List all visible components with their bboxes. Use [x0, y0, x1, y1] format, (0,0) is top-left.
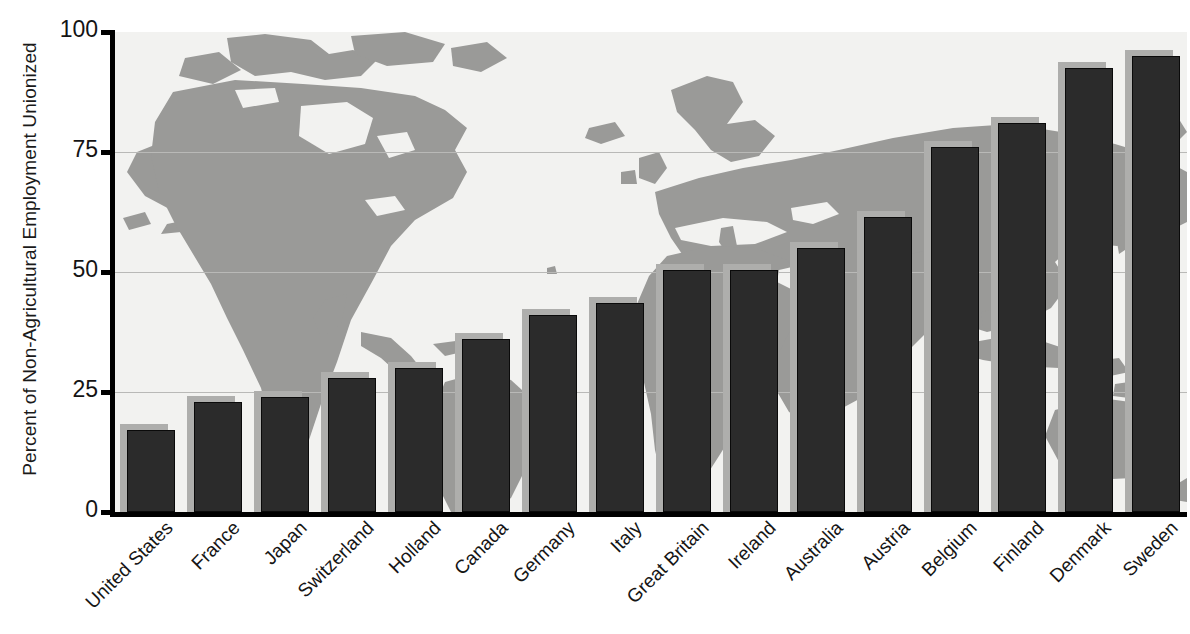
bar-fill: [328, 378, 376, 512]
bar: [663, 270, 711, 512]
bar: [998, 123, 1046, 512]
bar: [395, 368, 443, 512]
bar-fill: [797, 248, 845, 512]
x-axis-category-label: Holland: [384, 517, 445, 578]
y-axis-tick-label: 25: [40, 376, 98, 403]
bar-fill: [998, 123, 1046, 512]
y-axis-tick-mark: [101, 150, 115, 155]
x-axis-category-label: Germany: [508, 517, 579, 588]
x-axis-category-label: Italy: [606, 517, 646, 557]
x-axis-category-label: Australia: [779, 517, 847, 585]
bar: [328, 378, 376, 512]
bar: [730, 270, 778, 512]
bar: [1132, 56, 1180, 512]
bar-fill: [1132, 56, 1180, 512]
bar: [529, 315, 577, 512]
y-axis-tick-mark: [101, 270, 115, 275]
bar-fill: [529, 315, 577, 512]
bar: [462, 339, 510, 512]
bar-fill: [1065, 68, 1113, 512]
bar: [261, 397, 309, 512]
bar: [127, 430, 175, 512]
x-axis-category-label: Belgium: [917, 517, 981, 581]
y-axis-tick-label: 100: [40, 16, 98, 43]
bar: [797, 248, 845, 512]
y-axis-tick-label: 50: [40, 256, 98, 283]
x-axis-category-label: Japan: [259, 517, 311, 569]
x-axis-category-label: Canada: [449, 517, 512, 580]
bar: [596, 303, 644, 512]
bar-fill: [596, 303, 644, 512]
y-axis-tick-mark: [101, 510, 115, 515]
x-axis-category-label: Denmark: [1045, 517, 1115, 587]
y-axis-tick-labels: 0255075100: [36, 0, 98, 634]
x-axis-category-label: Austria: [857, 517, 914, 574]
bar-fill: [730, 270, 778, 512]
x-axis-category-label: Sweden: [1118, 517, 1182, 581]
bar-fill: [864, 217, 912, 512]
y-axis-tick-label: 75: [40, 136, 98, 163]
bar: [194, 402, 242, 512]
bar-series: [115, 32, 1187, 512]
bar-fill: [931, 147, 979, 512]
y-axis-tick-label: 0: [40, 496, 98, 523]
bar-fill: [663, 270, 711, 512]
y-axis-tick-mark: [101, 30, 115, 35]
bar-fill: [462, 339, 510, 512]
bar-fill: [261, 397, 309, 512]
plot-clip: [115, 32, 1187, 512]
bar-fill: [194, 402, 242, 512]
bar: [931, 147, 979, 512]
bar: [864, 217, 912, 512]
bar-fill: [127, 430, 175, 512]
x-axis-category-label: France: [187, 517, 244, 574]
bar-fill: [395, 368, 443, 512]
x-axis-category-label: Ireland: [723, 517, 780, 574]
y-axis-tick-mark: [101, 390, 115, 395]
plot-area: [110, 32, 1187, 517]
x-axis-category-label: Finland: [988, 517, 1048, 577]
bar: [1065, 68, 1113, 512]
x-axis-category-labels: United StatesFranceJapanSwitzerlandHolla…: [110, 517, 1182, 634]
chart-figure: Percent of Non-Agricultural Employment U…: [0, 0, 1190, 634]
